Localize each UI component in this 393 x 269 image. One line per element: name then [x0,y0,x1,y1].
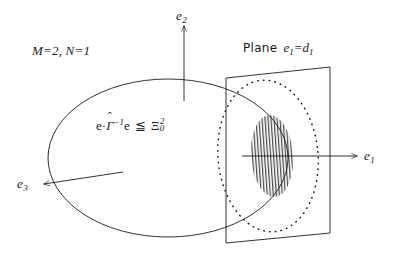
ineq-e-right: e [124,118,130,133]
ineq-exponent: −1 [114,117,125,127]
ineq-gamma-hat: ˆΓ [106,119,113,132]
axis-label-e2-sub: 2 [182,15,187,25]
plane-label: Planee1=d1 [243,41,313,57]
ineq-xi-glyph: Ξ [151,118,159,133]
ineq-relation-leq: ≦ [135,118,146,133]
axis-label-e3-base: e [17,176,23,191]
plane-eq-sub-2: 1 [309,47,314,57]
hat-accent-icon: ˆ [106,112,113,124]
axis-label-e3-sub: 3 [23,183,28,193]
axis-label-e3: e3 [17,177,28,193]
parameters-label: M=2, N=1 [32,44,90,57]
diagram-graphics [0,0,393,269]
axis-label-e1-base: e [364,148,370,163]
inequality-label: e·ˆΓ−1e≦Ξ20 [96,118,159,132]
axis-label-e1-sub: 1 [370,155,375,165]
plane-word: Plane [243,41,277,55]
ineq-xi: Ξ20 [151,119,159,132]
plane-eq-equals-d: =d [294,40,309,55]
axis-label-e1: e1 [364,149,375,165]
figure-canvas: M=2, N=1 Planee1=d1 e·ˆΓ−1e≦Ξ20 e1 e2 e3 [0,0,393,269]
ineq-xi-subscript: 0 [160,124,165,133]
plane-equation: e1=d1 [283,40,313,55]
axis-line-e3 [44,172,123,184]
axis-label-e2-base: e [176,8,182,23]
axis-label-e2: e2 [176,9,187,25]
